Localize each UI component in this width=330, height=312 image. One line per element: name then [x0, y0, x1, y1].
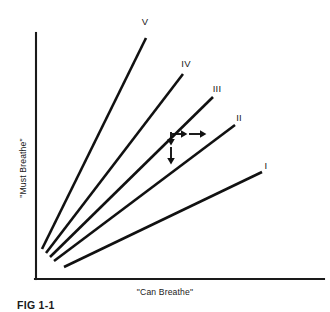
figure-caption: FIG 1-1: [17, 299, 55, 311]
series-label-iv: IV: [181, 58, 191, 69]
series-line-iii: [50, 97, 213, 257]
series-lines: [42, 38, 262, 267]
arrow-right-long-icon: [189, 130, 206, 138]
series-line-ii: [54, 125, 235, 261]
arrow-down-long-icon: [167, 147, 175, 164]
series-label-iii: III: [213, 83, 222, 94]
series-label-i: I: [265, 160, 268, 171]
y-axis-label: "Must Breathe": [18, 138, 28, 197]
series-line-i: [64, 172, 262, 267]
figure-container: V IV III II I: [0, 0, 330, 312]
series-label-v: V: [142, 16, 149, 27]
figure-chart: V IV III II I: [0, 0, 330, 312]
series-label-ii: II: [236, 112, 242, 123]
x-axis-label: "Can Breathe": [137, 287, 193, 297]
